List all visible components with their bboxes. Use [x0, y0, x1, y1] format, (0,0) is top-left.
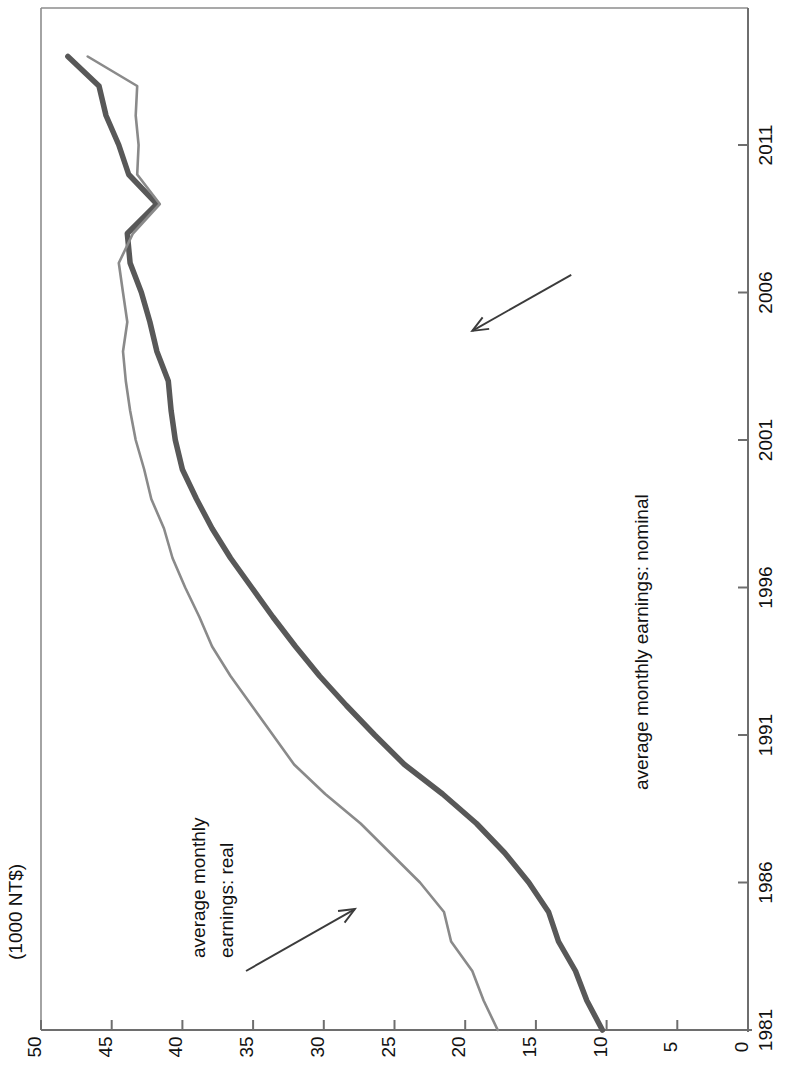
real-arrow-icon: [246, 909, 355, 971]
time-tick-label: 2006: [755, 271, 776, 313]
value-tick-label: 20: [448, 1036, 469, 1057]
value-tick-label: 40: [165, 1036, 186, 1057]
nominal-annotation-label: average monthly earnings: nominal: [631, 494, 652, 790]
time-tick-label: 2011: [755, 125, 776, 166]
rotated-line-chart: 05101520253035404550 1981198619911996200…: [0, 0, 790, 1065]
real-annotation-label-line1: average monthly: [188, 817, 209, 958]
real-arrowhead-icon: [338, 909, 355, 922]
series-line-nominal: [68, 57, 603, 1031]
time-tick-label: 1981: [755, 1009, 776, 1051]
nominal-arrow-icon: [472, 275, 571, 331]
nominal-annotation: average monthly earnings: nominal: [472, 275, 652, 790]
time-tick-label: 1991: [755, 714, 776, 756]
series-line-real: [88, 57, 498, 1031]
real-annotation-label-line2: earnings: real: [216, 843, 237, 958]
value-tick-label: 50: [24, 1036, 45, 1057]
time-tick-labels: 1981198619911996200120062011: [755, 125, 776, 1052]
time-tick-label: 1986: [755, 861, 776, 903]
value-axis-title: (1000 NT$): [5, 864, 26, 960]
value-tick-label: 0: [731, 1042, 752, 1053]
value-tick-label: 30: [307, 1036, 328, 1057]
value-tick-label: 10: [590, 1036, 611, 1057]
value-tick-label: 35: [236, 1036, 257, 1057]
value-tick-labels: 05101520253035404550: [24, 1036, 752, 1057]
real-annotation: average monthly earnings: real: [188, 817, 355, 971]
nominal-arrowhead-icon: [472, 317, 489, 330]
time-tick-label: 1996: [755, 566, 776, 608]
value-axis: [41, 1020, 752, 1030]
annotation-layer: average monthly earnings: nominal averag…: [188, 275, 652, 971]
value-tick-label: 15: [519, 1036, 540, 1057]
value-tick-label: 45: [95, 1036, 116, 1057]
value-tick-label: 5: [660, 1042, 681, 1053]
time-axis: [738, 8, 748, 1032]
value-tick-label: 25: [378, 1036, 399, 1057]
chart-canvas: 05101520253035404550 1981198619911996200…: [0, 0, 790, 1065]
time-tick-label: 2001: [755, 419, 776, 461]
series-lines: [68, 57, 603, 1031]
